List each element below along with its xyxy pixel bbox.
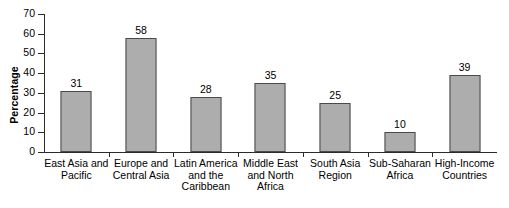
y-axis-tick-label: 60: [23, 27, 35, 40]
bar[interactable]: [320, 103, 351, 152]
x-axis-category-label: Sub-Saharan Africa: [368, 158, 433, 181]
bar-group: 28: [173, 14, 238, 152]
bars-container: 31582835251039: [44, 14, 497, 152]
x-axis-line: [44, 152, 497, 153]
y-axis-tick: 0: [38, 152, 44, 153]
bar[interactable]: [190, 97, 221, 152]
y-axis-tick-label: 40: [23, 66, 35, 79]
x-axis-category-label: East Asia and Pacific: [44, 158, 109, 181]
bar-group: 58: [109, 14, 174, 152]
x-axis-category-label: Middle East and North Africa: [238, 158, 303, 193]
bar-group: 35: [238, 14, 303, 152]
y-axis-title: Percentage: [8, 40, 20, 150]
bar-chart: Percentage 706050403020100 3158283525103…: [0, 0, 509, 208]
x-axis-category-label: Latin America and the Caribbean: [173, 158, 238, 193]
bar[interactable]: [449, 75, 480, 152]
bar[interactable]: [61, 91, 92, 152]
y-axis-tick-label: 70: [23, 7, 35, 20]
bar[interactable]: [384, 132, 415, 152]
bar-group: 25: [303, 14, 368, 152]
y-axis-tick-label: 10: [23, 125, 35, 138]
x-axis-separator: [432, 152, 433, 157]
x-axis-separator: [303, 152, 304, 157]
x-axis-category-label: Europe and Central Asia: [109, 158, 174, 181]
y-axis-tick-label: 0: [29, 145, 35, 158]
bar-value-label: 10: [394, 118, 406, 130]
bar[interactable]: [126, 38, 157, 152]
x-axis-separator: [238, 152, 239, 157]
x-axis-category-label: High-Income Countries: [432, 158, 497, 181]
y-axis-tick-label: 50: [23, 46, 35, 59]
bar-value-label: 31: [71, 77, 83, 89]
bar[interactable]: [255, 83, 286, 152]
bar-value-label: 58: [135, 24, 147, 36]
bar-group: 10: [368, 14, 433, 152]
x-axis-category-label: South Asia Region: [303, 158, 368, 181]
bar-value-label: 28: [200, 83, 212, 95]
x-axis-separator: [109, 152, 110, 157]
bar-value-label: 35: [265, 69, 277, 81]
y-axis-tick-label: 30: [23, 86, 35, 99]
x-axis-labels: East Asia and PacificEurope and Central …: [44, 158, 497, 208]
bar-value-label: 39: [459, 61, 471, 73]
bar-value-label: 25: [329, 89, 341, 101]
bar-group: 39: [432, 14, 497, 152]
bar-group: 31: [44, 14, 109, 152]
plot-area: 706050403020100 31582835251039: [44, 14, 497, 152]
y-axis-tick-label: 20: [23, 106, 35, 119]
